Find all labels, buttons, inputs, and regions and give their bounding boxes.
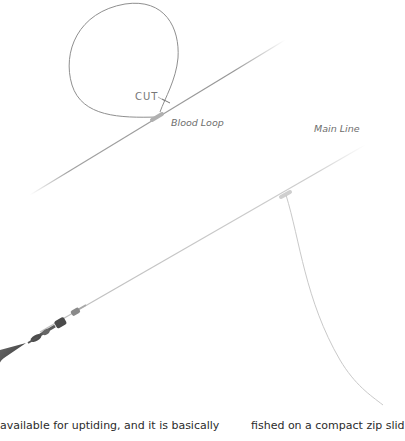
main-line-label: Main Line bbox=[314, 123, 360, 134]
cut-pointer bbox=[158, 97, 165, 101]
cut-mark bbox=[162, 99, 170, 103]
lower-main-line bbox=[40, 145, 365, 332]
body-text-left: available for uptiding, and it is basica… bbox=[0, 419, 219, 432]
snood-line bbox=[286, 195, 383, 405]
cut-label: CUT bbox=[135, 91, 158, 102]
blood-loop bbox=[69, 3, 178, 117]
lead-weight bbox=[0, 343, 26, 378]
swivel-assembly bbox=[28, 305, 86, 344]
body-text-right: fished on a compact zip slid bbox=[251, 419, 405, 432]
blood-loop-label: Blood Loop bbox=[171, 117, 224, 128]
blood-loop-knot bbox=[152, 114, 162, 120]
